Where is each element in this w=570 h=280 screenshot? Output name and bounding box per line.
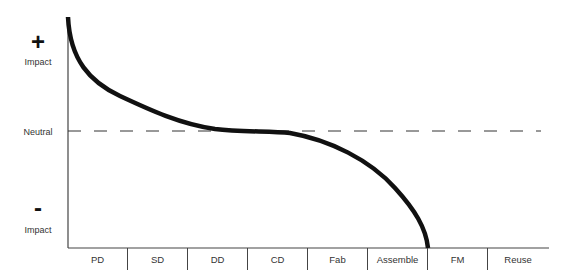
phase-fm: FM — [428, 248, 488, 270]
neutral-label: Neutral — [8, 127, 68, 137]
phase-dd: DD — [188, 248, 248, 270]
positive-impact-label: Impact — [8, 57, 68, 67]
phase-axis: PD SD DD CD Fab Assemble FM Reuse — [68, 248, 548, 270]
phase-sd: SD — [128, 248, 188, 270]
negative-sign: - — [8, 196, 68, 220]
impact-curve — [68, 17, 428, 248]
phase-reuse: Reuse — [488, 248, 548, 270]
phase-pd: PD — [68, 248, 128, 270]
phase-fab: Fab — [308, 248, 368, 270]
negative-impact-label: Impact — [8, 225, 68, 235]
phase-assemble: Assemble — [368, 248, 428, 270]
impact-chart — [0, 0, 570, 280]
phase-cd: CD — [248, 248, 308, 270]
positive-sign: + — [8, 30, 68, 54]
